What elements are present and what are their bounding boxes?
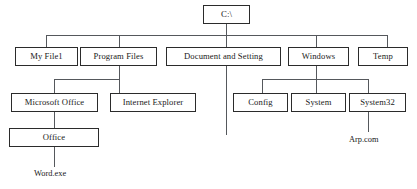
- node-label: C:\: [221, 10, 232, 19]
- node-program-files[interactable]: Program Files: [80, 47, 157, 66]
- node-label: Microsoft Office: [25, 98, 84, 107]
- edge-drop-microsoft-office: [54, 79, 55, 93]
- node-label: Office: [43, 133, 65, 142]
- edge-program-files-stem: [119, 66, 120, 79]
- edge-drop-temp: [387, 35, 388, 47]
- node-office[interactable]: Office: [9, 128, 99, 147]
- edge-drop-program-files: [119, 35, 120, 47]
- node-root-c-drive[interactable]: C:\: [203, 5, 250, 24]
- edge-windows-stem: [316, 66, 317, 79]
- node-label: Program Files: [94, 52, 144, 61]
- node-label: Internet Explorer: [123, 98, 184, 107]
- node-arp-com[interactable]: Arp.com: [349, 136, 379, 144]
- edge-level1-bus: [46, 35, 387, 36]
- node-internet-explorer[interactable]: Internet Explorer: [110, 93, 196, 112]
- node-label: Document and Setting: [184, 52, 263, 61]
- edge-drop-windows: [316, 35, 317, 47]
- node-label: Config: [248, 98, 272, 107]
- node-microsoft-office[interactable]: Microsoft Office: [11, 93, 98, 112]
- edge-drop-internet-explorer: [119, 79, 120, 93]
- node-word-exe[interactable]: Word.exe: [34, 170, 66, 178]
- node-label: System: [306, 98, 332, 107]
- edge-document-and-setting-stem: [226, 66, 227, 135]
- node-label: System32: [360, 98, 395, 107]
- edge-drop-my-file1: [46, 35, 47, 47]
- node-document-and-setting[interactable]: Document and Setting: [166, 47, 281, 66]
- node-config[interactable]: Config: [233, 93, 288, 112]
- directory-tree-diagram: C:\ My File1 Program Files Document and …: [0, 0, 417, 189]
- edge-office-stem: [54, 147, 55, 167]
- edge-drop-system: [316, 79, 317, 93]
- node-temp[interactable]: Temp: [358, 47, 408, 66]
- node-system[interactable]: System: [291, 93, 346, 112]
- node-system32[interactable]: System32: [349, 93, 406, 112]
- edge-program-files-bus: [54, 79, 120, 80]
- edge-windows-bus: [262, 79, 368, 80]
- edge-system32-stem: [368, 112, 369, 132]
- edge-drop-system32: [368, 79, 369, 93]
- node-label: Windows: [302, 52, 335, 61]
- edge-microsoft-office-stem: [54, 112, 55, 128]
- node-windows[interactable]: Windows: [288, 47, 349, 66]
- node-label: Temp: [373, 52, 393, 61]
- edge-drop-document-and-setting: [226, 35, 227, 47]
- edge-drop-config: [262, 79, 263, 93]
- node-my-file1[interactable]: My File1: [15, 47, 78, 66]
- edge-root-stem: [226, 24, 227, 35]
- node-label: My File1: [30, 52, 63, 61]
